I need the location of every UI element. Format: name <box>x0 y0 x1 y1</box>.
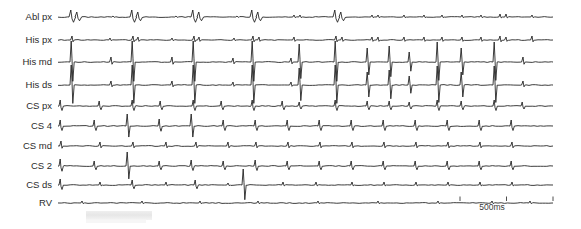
channel-label-abl-px: Abl px <box>26 11 53 22</box>
channel-label-cs-2: CS 2 <box>31 160 52 171</box>
channel-label-cs-md: CS md <box>23 140 52 151</box>
channel-label-cs-px: CS px <box>26 100 52 111</box>
channel-label-column: Abl pxHis pxHis mdHis dsCS pxCS 4CS mdCS… <box>22 11 52 208</box>
channel-label-rv: RV <box>39 197 53 208</box>
channel-label-his-px: His px <box>26 34 53 45</box>
channel-label-his-md: His md <box>22 56 52 67</box>
channel-label-cs-ds: CS ds <box>26 179 52 190</box>
channel-label-cs-4: CS 4 <box>31 120 52 131</box>
watermark-smudge-secondary <box>86 219 146 223</box>
channel-label-his-ds: His ds <box>26 79 53 90</box>
chart-background <box>0 0 581 229</box>
scale-bar-label: 500ms <box>479 202 505 212</box>
ep-recording-chart: Abl pxHis pxHis mdHis dsCS pxCS 4CS mdCS… <box>0 0 581 229</box>
